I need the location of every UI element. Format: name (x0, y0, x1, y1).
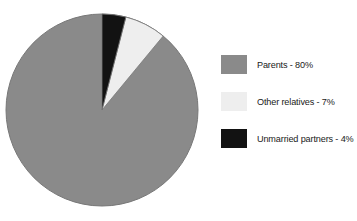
pie-slice-group (6, 14, 198, 206)
legend-label-parents: Parents - 80% (257, 59, 313, 70)
legend-swatch-parents (221, 55, 247, 74)
legend-item-unmarried-partners[interactable]: Unmarried partners - 4% (221, 129, 357, 148)
legend-label-other-relatives: Other relatives - 7% (257, 96, 335, 107)
pie-chart-svg (0, 0, 210, 221)
legend-label-unmarried-partners: Unmarried partners - 4% (257, 133, 354, 144)
legend-swatch-other-relatives (221, 92, 247, 111)
pie-chart-figure: Parents - 80% Other relatives - 7% Unmar… (0, 0, 357, 221)
legend-item-parents[interactable]: Parents - 80% (221, 55, 357, 74)
chart-legend: Parents - 80% Other relatives - 7% Unmar… (221, 55, 357, 166)
pie-chart-plot-area (0, 0, 210, 221)
legend-item-other-relatives[interactable]: Other relatives - 7% (221, 92, 357, 111)
legend-swatch-unmarried-partners (221, 129, 247, 148)
